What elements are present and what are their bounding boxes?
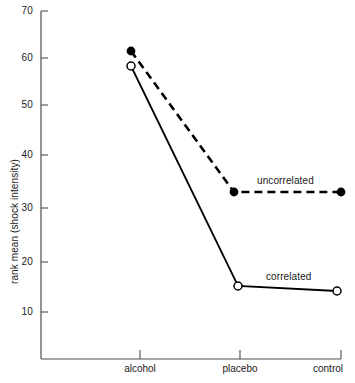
data-point-correlated-placebo <box>234 282 242 290</box>
data-point-uncorrelated-control <box>337 188 346 197</box>
y-axis-ticks <box>41 11 48 312</box>
x-tick-label-alcohol: alcohol <box>110 363 170 374</box>
y-tick-label-60: 60 <box>11 52 33 63</box>
line-chart-plot <box>0 0 355 383</box>
x-tick-label-control: control <box>313 363 355 374</box>
data-point-correlated-control <box>333 287 341 295</box>
data-point-correlated-alcohol <box>127 62 135 70</box>
y-tick-label-70: 70 <box>11 5 33 16</box>
data-point-uncorrelated-alcohol <box>127 47 136 56</box>
data-point-uncorrelated-placebo <box>230 188 239 197</box>
y-tick-label-50: 50 <box>11 99 33 110</box>
series-annotation-uncorrelated: uncorrelated <box>257 175 314 186</box>
x-tick-label-placebo: placebo <box>210 363 270 374</box>
y-axis-title: rank mean (shock intensity) <box>9 127 20 317</box>
chart-figure: 70 60 50 40 30 20 10 alcohol placebo con… <box>0 0 355 383</box>
series-uncorrelated <box>127 47 346 197</box>
x-axis-ticks <box>140 350 341 359</box>
series-uncorrelated-line <box>131 51 341 192</box>
series-annotation-correlated: correlated <box>266 271 311 282</box>
